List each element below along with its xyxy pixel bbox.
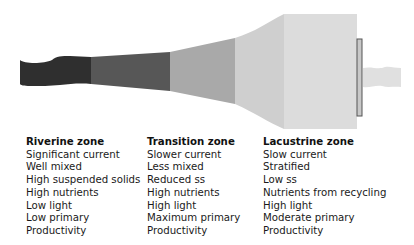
riverine-channel (20, 56, 91, 86)
lacustrine-zone-description: Lacustrine zoneSlow currentStratifiedLow… (263, 136, 386, 238)
zone-characteristic: High suspended solids (26, 174, 140, 187)
zone-characteristic: Slow current (263, 149, 386, 162)
zone-characteristic: Reduced ss (147, 174, 240, 187)
zone-characteristic: High nutrients (26, 187, 140, 200)
zone-characteristic: Productivity (147, 225, 240, 238)
riverine-zone-description: Riverine zoneSignificant currentWell mix… (26, 136, 140, 238)
zone-characteristic: Productivity (263, 225, 386, 238)
zone-characteristic: Well mixed (26, 161, 140, 174)
dam (357, 39, 362, 116)
zone-characteristic: Low primary (26, 212, 140, 225)
zone-characteristic: Nutrients from recycling (263, 187, 386, 200)
zone-title: Riverine zone (26, 136, 140, 149)
reservoir-zone-diagram (0, 0, 414, 135)
transition-upper-segment (91, 52, 170, 91)
zone-characteristic: Stratified (263, 161, 386, 174)
zone-characteristic: Significant current (26, 149, 140, 162)
zone-title: Lacustrine zone (263, 136, 386, 149)
zone-characteristic: High light (147, 200, 240, 213)
zone-title: Transition zone (147, 136, 240, 149)
outflow-channel (363, 67, 401, 87)
zone-characteristic: High light (263, 200, 386, 213)
zone-characteristic: Low ss (263, 174, 386, 187)
zone-characteristic: Maximum primary (147, 212, 240, 225)
zone-characteristic: Moderate primary (263, 212, 386, 225)
transition-zone-description: Transition zoneSlower currentLess mixedR… (147, 136, 240, 238)
lacustrine-basin (284, 14, 357, 129)
transition-lower-segment (170, 38, 235, 104)
zone-characteristic: Slower current (147, 149, 240, 162)
zone-characteristic: Low light (26, 200, 140, 213)
zone-characteristic: Less mixed (147, 161, 240, 174)
zone-characteristic: High nutrients (147, 187, 240, 200)
zone-characteristic: Productivity (26, 225, 140, 238)
lacustrine-neck (235, 14, 284, 129)
